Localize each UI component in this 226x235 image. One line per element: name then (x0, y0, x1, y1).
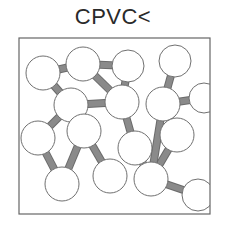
atom-circle (93, 159, 127, 193)
atom-circle (105, 85, 139, 119)
atom-circle (146, 87, 180, 121)
atom-circle (112, 50, 144, 82)
atom-circle (67, 114, 101, 148)
atom-circle (26, 56, 60, 90)
atom-circle (160, 118, 194, 152)
atom-circle (45, 167, 79, 201)
atom-circle (66, 47, 100, 81)
atom-circle (189, 83, 219, 113)
atom-circle (118, 131, 152, 165)
atom-circle (182, 179, 214, 211)
molecular-structure-diagram (0, 0, 226, 235)
atom-circle (134, 162, 168, 196)
atom-circle (21, 121, 55, 155)
atoms-layer (21, 45, 219, 211)
atom-circle (159, 45, 191, 77)
